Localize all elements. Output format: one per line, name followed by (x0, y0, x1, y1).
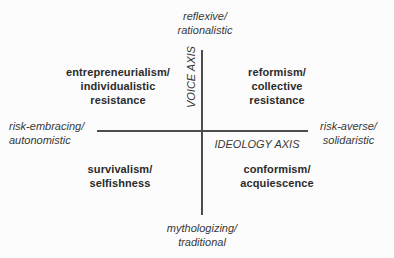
quadrant-top-right-label: reformism/ collective resistance (202, 65, 352, 107)
ideology-axis-left-pole-label: risk-embracing/ autonomistic (9, 119, 104, 147)
quadrant-top-left-label: entrepreneurialism/ individualistic resi… (43, 65, 193, 107)
ideology-axis-line (97, 130, 308, 132)
voice-axis-bottom-pole-label: mythologizing/ traditional (141, 221, 263, 249)
quadrant-diagram: reflexive/ rationalistic mythologizing/ … (0, 0, 394, 258)
voice-axis-top-pole-label: reflexive/ rationalistic (143, 9, 267, 37)
ideology-axis-right-pole-label: risk-averse/ solidaristic (306, 119, 391, 147)
quadrant-bottom-left-label: survivalism/ selfishness (45, 162, 195, 190)
ideology-axis-title: IDEOLOGY AXIS (207, 137, 307, 151)
quadrant-bottom-right-label: conformism/ acquiescence (202, 162, 352, 190)
